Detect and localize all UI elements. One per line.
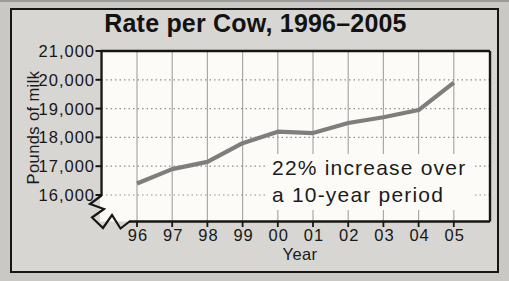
annotation-label: 22% increase over a 10-year period bbox=[266, 154, 472, 210]
x-tick-label: 02 bbox=[339, 226, 359, 244]
chart-plot: 16,00017,00018,00019,00020,00021,0009697… bbox=[0, 0, 509, 281]
x-axis-ticks: 96979899000102030405 bbox=[128, 222, 465, 245]
x-tick-label: 03 bbox=[374, 226, 394, 244]
y-tick-label: 20,000 bbox=[39, 71, 95, 89]
y-tick-label: 18,000 bbox=[39, 128, 95, 146]
x-tick-label: 99 bbox=[233, 226, 253, 244]
figure-scan: 16,00017,00018,00019,00020,00021,0009697… bbox=[0, 0, 509, 281]
y-tick-label: 17,000 bbox=[39, 157, 95, 175]
annotation-line2: a 10-year period bbox=[272, 181, 466, 208]
x-tick-label: 97 bbox=[163, 226, 183, 244]
x-tick-label: 00 bbox=[269, 226, 289, 244]
chart-title: Rate per Cow, 1996–2005 bbox=[12, 9, 499, 38]
annotation-line1: 22% increase over bbox=[272, 154, 466, 181]
y-tick-label: 19,000 bbox=[39, 100, 95, 118]
y-tick-label: 21,000 bbox=[39, 42, 95, 60]
y-axis-ticks: 16,00017,00018,00019,00020,00021,000 bbox=[39, 42, 102, 204]
x-tick-label: 05 bbox=[445, 226, 465, 244]
x-tick-label: 96 bbox=[128, 226, 148, 244]
x-tick-label: 04 bbox=[409, 226, 429, 244]
x-axis-title: Year bbox=[250, 245, 350, 264]
x-tick-label: 98 bbox=[198, 226, 218, 244]
x-tick-label: 01 bbox=[304, 226, 324, 244]
y-axis-title: Pounds of milk bbox=[24, 70, 43, 186]
y-tick-label: 16,000 bbox=[39, 186, 95, 204]
